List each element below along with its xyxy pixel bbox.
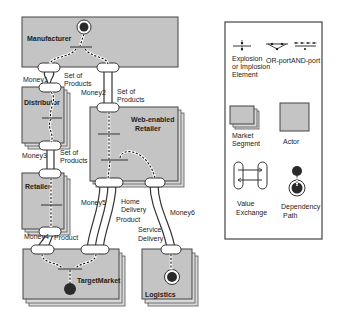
value-interface[interactable] [95, 178, 123, 187]
label-money5: Money5 [81, 199, 106, 207]
label-money6: Money6 [170, 209, 195, 217]
legend-explosion-label-1: Explosion [232, 55, 262, 63]
legend-value-exchange-label-2: Exchange [236, 209, 267, 217]
legend: Explosion or Implosion Element OR-port A… [225, 22, 322, 239]
legend-explosion-label-3: Element [232, 71, 258, 78]
label-products-3: Products [60, 157, 88, 164]
legend-explosion-label-2: or Implosion [232, 63, 270, 71]
logistics-label: Logistics [145, 291, 176, 299]
value-interface[interactable] [39, 169, 61, 178]
label-products-1: Products [64, 80, 92, 87]
label-products-2: Products [117, 96, 145, 103]
market-segment-icon [230, 106, 259, 129]
actor-retailer[interactable]: Retailer [22, 173, 70, 235]
label-product-1: Product [54, 234, 78, 241]
label-set-of-3: Set of [60, 149, 78, 156]
legend-and-port-label: AND-port [291, 57, 320, 65]
web-retailer-label-2: Retailer [135, 125, 161, 132]
web-retailer-label-1: Web-enabled [131, 116, 174, 123]
value-interface[interactable] [31, 245, 54, 254]
actor-target-market[interactable]: TargetMarket [23, 249, 125, 306]
label-home: Home [121, 198, 140, 205]
legend-or-port-label: OR-port [266, 57, 291, 65]
legend-market-segment-label-1: Market [232, 132, 253, 139]
value-exchange-webretailer-targetmarket[interactable] [87, 184, 116, 250]
value-interface[interactable] [81, 245, 109, 254]
label-set-of-2: Set of [117, 88, 135, 95]
label-delivery-2: Delivery [138, 235, 164, 243]
label-money4: Money4 [24, 233, 49, 241]
start-stimulus-icon [165, 270, 180, 285]
retailer-label: Retailer [25, 183, 51, 190]
label-product-2: Product [116, 216, 140, 223]
manufacturer-label: Manufacturer [27, 35, 72, 42]
legend-actor-label: Actor [283, 138, 300, 145]
start-stimulus-icon [77, 20, 91, 34]
value-interface[interactable] [39, 83, 61, 92]
legend-dependency-path-label-2: Path [283, 212, 298, 219]
label-service: Service [138, 226, 161, 233]
label-money1: Money1 [23, 76, 48, 84]
value-interface[interactable] [39, 141, 61, 150]
target-market-label: TargetMarket [77, 277, 121, 285]
legend-market-segment-label-2: Segment [232, 140, 260, 148]
actor-manufacturer[interactable]: Manufacturer [22, 17, 178, 67]
value-interface[interactable] [38, 63, 60, 72]
legend-value-exchange-label-1: Value [237, 200, 254, 207]
e3value-diagram: Manufacturer Distributor Retailer Web-en… [0, 0, 339, 322]
actor-web-enabled-retailer[interactable]: Web-enabled Retailer [90, 107, 184, 187]
label-money2: Money2 [81, 89, 106, 97]
legend-dependency-path-label-1: Dependency [281, 203, 321, 211]
label-delivery-1: Delivery [121, 206, 147, 214]
value-interface[interactable] [97, 103, 119, 112]
end-stimulus-icon [64, 283, 76, 295]
label-money3: Money3 [22, 152, 47, 160]
label-set-of-1: Set of [64, 72, 82, 79]
actor-icon [280, 103, 309, 131]
value-interface[interactable] [145, 178, 165, 187]
value-interface[interactable] [161, 245, 181, 254]
value-interface[interactable] [97, 63, 119, 72]
